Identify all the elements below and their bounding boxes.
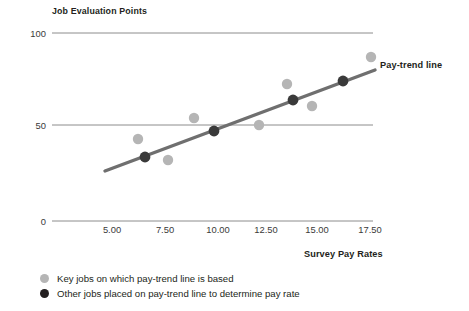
other-job-marker <box>140 152 151 163</box>
legend-item-label: Key jobs on which pay-trend line is base… <box>57 273 234 284</box>
key-job-marker <box>189 113 199 123</box>
legend-item-key-jobs: Key jobs on which pay-trend line is base… <box>40 271 440 286</box>
plot-area <box>0 0 469 311</box>
key-job-legend-swatch-icon <box>40 274 49 283</box>
legend: Key jobs on which pay-trend line is base… <box>40 271 440 301</box>
other-job-marker <box>288 95 299 106</box>
key-job-marker <box>254 120 264 130</box>
key-job-marker <box>163 155 173 165</box>
pay-trend-line-label: Pay-trend line <box>380 60 442 70</box>
other-job-marker <box>338 76 349 87</box>
other-job-legend-swatch-icon <box>40 289 49 298</box>
key-job-marker <box>366 52 376 62</box>
key-job-marker <box>133 134 143 144</box>
pay-trend-scatter-chart: Job Evaluation Points 100 50 0 5.00 7.50… <box>0 0 469 311</box>
key-job-marker <box>282 79 292 89</box>
other-job-marker <box>209 126 220 137</box>
legend-item-other-jobs: Other jobs placed on pay-trend line to d… <box>40 286 440 301</box>
legend-item-label: Other jobs placed on pay-trend line to d… <box>57 288 300 299</box>
key-job-marker <box>307 101 317 111</box>
